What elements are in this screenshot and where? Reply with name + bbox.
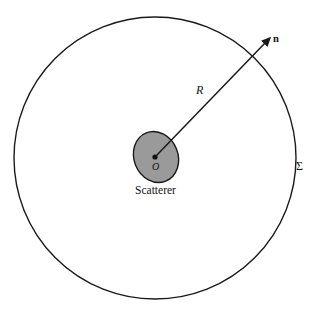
scatterer-caption-label: Scatterer (0, 185, 311, 197)
radius-r-label: R (196, 84, 203, 96)
origin-o-label: O (152, 162, 159, 172)
normal-vector-n-label: n (273, 34, 279, 45)
origin-dot (152, 154, 157, 159)
radius-vector-line (155, 43, 266, 158)
diagram-canvas (0, 0, 321, 315)
surface-sigma-label: Σ (296, 160, 303, 172)
scattering-diagram: Σ n R O Scatterer (0, 0, 321, 315)
